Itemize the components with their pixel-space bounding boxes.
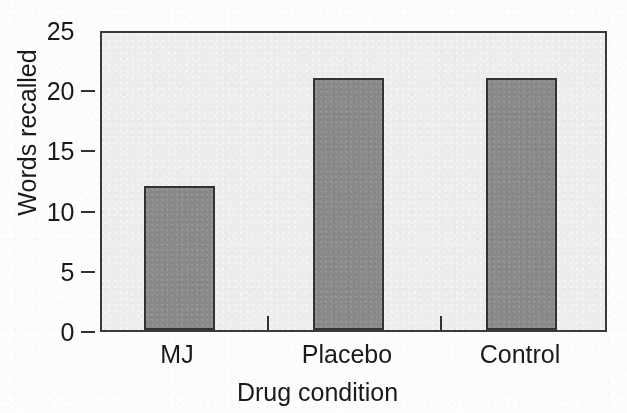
y-axis-title: Words recalled — [13, 18, 42, 248]
x-axis-group-separator-tick-1 — [267, 316, 269, 330]
bar-fill-texture — [146, 188, 213, 328]
x-axis-group-separator-tick-2 — [440, 316, 442, 330]
y-axis-tick-mark-0 — [81, 331, 95, 333]
plot-area — [100, 31, 607, 332]
x-axis-title-text: Drug condition — [237, 378, 398, 407]
y-axis-tick-mark-10 — [81, 211, 95, 213]
x-axis-tick-label-control: Control — [468, 340, 572, 369]
y-axis-tick-label-0: 0 — [14, 318, 74, 347]
bar-mj[interactable] — [144, 186, 215, 330]
y-axis-tick-mark-20 — [81, 90, 95, 92]
y-axis-tick-mark-5 — [81, 271, 95, 273]
y-axis-tick-mark-15 — [81, 150, 95, 152]
bar-fill-texture — [488, 80, 555, 328]
bar-fill-texture — [315, 80, 382, 328]
bar-control[interactable] — [486, 78, 557, 330]
bar-placebo[interactable] — [313, 78, 384, 330]
x-axis-title: Drug condition — [0, 378, 627, 407]
y-axis: 25 20 15 10 5 0 Words recalled — [0, 0, 100, 413]
y-axis-tick-label-5: 5 — [14, 258, 74, 287]
bar-chart-figure: 25 20 15 10 5 0 Words recalled — [0, 0, 627, 413]
x-axis-tick-label-placebo: Placebo — [291, 340, 403, 369]
x-axis-tick-label-mj: MJ — [137, 340, 217, 369]
